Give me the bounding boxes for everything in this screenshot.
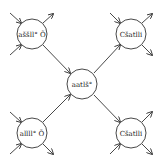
node-label: aššll° Õ (18, 30, 46, 39)
outgoing-arrow (142, 14, 152, 23)
edge-bottom-left-to-center (43, 95, 70, 122)
edge-center-to-top-right (94, 45, 120, 73)
node-label: Cšatlli (120, 130, 143, 138)
diagram-canvas: aššll° Õ Cšatlli aatlš° allll° Õ Cšatlli (0, 0, 163, 167)
outgoing-arrow (142, 144, 152, 154)
incoming-arrow (110, 13, 120, 23)
outgoing-arrow (142, 112, 152, 122)
incoming-arrow (10, 112, 21, 122)
outgoing-arrow (43, 144, 53, 154)
node-label: Cšatlli (120, 31, 143, 39)
outgoing-arrow (142, 45, 152, 55)
incoming-arrow (110, 144, 120, 154)
edge-center-to-bottom-right (94, 95, 120, 122)
node-label: aatlš° (72, 81, 93, 89)
incoming-arrow (10, 144, 21, 154)
edge-top-left-to-center (43, 45, 70, 73)
incoming-arrow (10, 45, 21, 55)
outgoing-arrow (43, 14, 53, 23)
node-label: allll° Õ (20, 129, 45, 138)
incoming-arrow (10, 13, 21, 23)
node-center[interactable]: aatlš° (67, 69, 97, 99)
